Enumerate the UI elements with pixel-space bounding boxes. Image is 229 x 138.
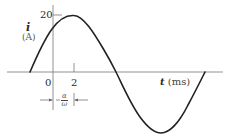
arrowhead-left — [49, 99, 53, 102]
phase-annotation: α ω — [61, 93, 68, 108]
arrowhead-right — [74, 99, 78, 102]
current-waveform — [30, 15, 205, 133]
y-axis-unit: (A) — [22, 33, 36, 42]
x-axis-unit: (ms) — [168, 76, 190, 87]
x-axis-symbol: t — [160, 76, 165, 87]
x-axis-label: t (ms) — [160, 77, 190, 87]
phase-denominator: ω — [61, 101, 68, 108]
y-tick-label-20: 20 — [40, 10, 53, 20]
x-tick-label-2: 2 — [71, 78, 77, 88]
x-tick-label-0: 0 — [45, 78, 51, 88]
waveform-plot — [0, 0, 229, 138]
